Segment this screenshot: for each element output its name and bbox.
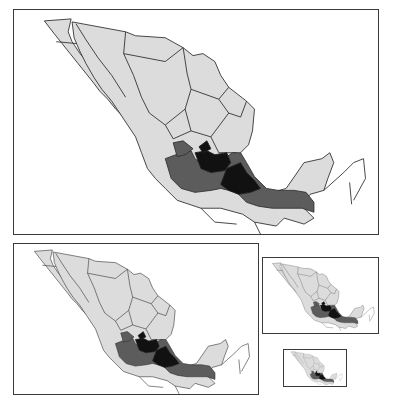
map-panel-smallest	[283, 349, 347, 387]
map-panel-large	[13, 9, 379, 235]
mexico-map-large	[14, 10, 378, 234]
map-panel-medium	[13, 243, 259, 395]
mexico-map-small	[263, 258, 378, 333]
mexico-map-smallest	[284, 350, 346, 386]
map-panel-small	[262, 257, 379, 334]
mexico-map-medium	[14, 244, 258, 394]
